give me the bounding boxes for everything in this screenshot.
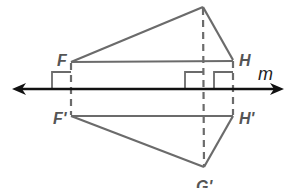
label-f-prime: F' [53, 110, 68, 127]
dashed-g-g-prime [203, 8, 204, 166]
right-angle-marker-f [52, 72, 71, 89]
original-figure [71, 7, 233, 62]
image-figure [71, 116, 233, 167]
segment-f-prime-g-prime [71, 116, 204, 167]
label-g-prime: G' [196, 178, 213, 188]
label-h-prime: H' [239, 110, 256, 127]
right-angle-markers [52, 72, 233, 89]
right-angle-marker-g [185, 72, 203, 89]
segment-fg [71, 7, 203, 62]
segment-g-prime-h-prime [204, 116, 233, 167]
label-h: H [239, 52, 251, 69]
diagram-svg: F H m F' H' G' [0, 0, 292, 188]
label-m: m [258, 64, 273, 84]
label-f: F [57, 52, 68, 69]
reflection-diagram: F H m F' H' G' [0, 0, 292, 188]
right-angle-marker-h [214, 72, 233, 89]
segment-gh [203, 7, 233, 60]
perpendicular-connectors [71, 8, 233, 166]
segment-fh [71, 61, 233, 62]
